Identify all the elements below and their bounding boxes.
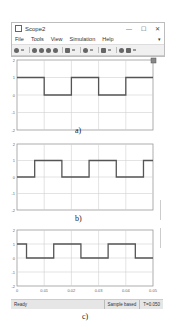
y-tick-label: 2 bbox=[13, 58, 16, 63]
y-tick-label: 2 bbox=[13, 228, 16, 233]
y-tick-label: -2 bbox=[11, 208, 15, 213]
x-tick-label: 0.04 bbox=[122, 288, 131, 293]
settings-dropdown-icon[interactable] bbox=[21, 49, 24, 51]
y-tick-label: 1 bbox=[13, 158, 16, 163]
zoom-dropdown-icon[interactable] bbox=[90, 49, 93, 51]
plot-c[interactable]: 210-1-200.010.020.030.040.05 bbox=[5, 226, 165, 298]
x-tick-label: 0.05 bbox=[149, 288, 158, 293]
legend-toggle-icon bbox=[151, 58, 156, 63]
toolbar bbox=[12, 44, 164, 56]
plot-b[interactable]: 210-1-2 bbox=[5, 140, 165, 226]
menu-simulation[interactable]: Simulation bbox=[70, 36, 96, 42]
plot-panel-b: 210-1-2 b) bbox=[5, 140, 165, 226]
menu-view[interactable]: View bbox=[51, 36, 63, 42]
menu-overflow-icon[interactable]: ▾ bbox=[158, 36, 161, 42]
step-forward-icon[interactable] bbox=[53, 48, 58, 53]
menu-file[interactable]: File bbox=[15, 36, 24, 42]
stop-icon[interactable] bbox=[39, 48, 44, 53]
x-tick-label: 0.03 bbox=[95, 288, 104, 293]
scope-window: Scope2 — ☐ ✕ File Tools View Simulation … bbox=[11, 22, 165, 57]
highlight-icon[interactable] bbox=[65, 48, 70, 53]
y-tick-label: 0 bbox=[13, 256, 16, 261]
y-tick-label: 0 bbox=[13, 93, 16, 98]
plot-panel-c: 210-1-200.010.020.030.040.05 bbox=[5, 226, 165, 298]
status-bar: Ready Sample based T=0.050 bbox=[11, 299, 163, 309]
step-back-icon[interactable] bbox=[32, 48, 37, 53]
window-title: Scope2 bbox=[25, 26, 122, 32]
run-icon[interactable] bbox=[46, 48, 51, 53]
x-tick-label: 0.02 bbox=[68, 288, 77, 293]
highlight-dropdown-icon[interactable] bbox=[72, 49, 75, 51]
status-ready: Ready bbox=[14, 302, 104, 307]
y-tick-label: 2 bbox=[13, 142, 16, 147]
plot-panel-a: 210-1-2 a) bbox=[5, 56, 165, 138]
caption-c: c) bbox=[82, 312, 88, 321]
scrollbar-edge bbox=[160, 228, 161, 248]
zoom-icon[interactable] bbox=[83, 48, 88, 53]
close-button[interactable]: ✕ bbox=[150, 25, 164, 32]
toolbar-separator bbox=[116, 47, 117, 53]
measurements-icon[interactable] bbox=[126, 48, 131, 53]
scrollbar-edge bbox=[160, 200, 161, 220]
y-tick-label: -1 bbox=[11, 191, 15, 196]
measurements-dropdown-icon[interactable] bbox=[133, 49, 136, 51]
autoscale-dropdown-icon[interactable] bbox=[108, 49, 111, 51]
menu-tools[interactable]: Tools bbox=[31, 36, 44, 42]
menu-bar: File Tools View Simulation Help ▾ bbox=[12, 34, 164, 44]
toolbar-separator bbox=[98, 47, 99, 53]
toolbar-separator bbox=[29, 47, 30, 53]
maximize-button[interactable]: ☐ bbox=[136, 25, 150, 32]
y-tick-label: -1 bbox=[11, 270, 15, 275]
y-tick-label: -1 bbox=[11, 110, 15, 115]
minimize-button[interactable]: — bbox=[122, 26, 136, 32]
settings-icon[interactable] bbox=[14, 48, 19, 53]
toolbar-separator bbox=[62, 47, 63, 53]
autoscale-icon[interactable] bbox=[101, 48, 106, 53]
status-mode: Sample based bbox=[104, 300, 140, 309]
status-time: T=0.050 bbox=[139, 300, 163, 309]
title-bar: Scope2 — ☐ ✕ bbox=[12, 23, 164, 34]
toolbar-separator bbox=[80, 47, 81, 53]
x-tick-label: 0.01 bbox=[40, 288, 49, 293]
menu-help[interactable]: Help bbox=[102, 36, 113, 42]
x-tick-label: 0 bbox=[16, 288, 19, 293]
y-tick-label: 1 bbox=[13, 242, 16, 247]
trigger-icon[interactable] bbox=[119, 48, 124, 53]
caption-b: b) bbox=[75, 214, 82, 223]
y-tick-label: 0 bbox=[13, 175, 16, 180]
y-tick-label: -2 bbox=[11, 128, 15, 133]
scope-app-icon bbox=[15, 25, 22, 32]
caption-a: a) bbox=[75, 126, 81, 135]
y-tick-label: 1 bbox=[13, 75, 16, 80]
plot-a[interactable]: 210-1-2 bbox=[5, 56, 165, 138]
